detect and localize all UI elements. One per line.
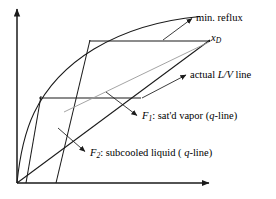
f2-tail-text: -line) (189, 147, 212, 158)
annotation-f1: F1: sat'd vapor (q-line) (142, 111, 237, 123)
f2-text: : subcooled liquid ( (100, 147, 184, 158)
annotation-min-reflux: min. reflux (196, 13, 243, 24)
distillation-diagram-figure: min. reflux xD actual L/V line F1: sat'd… (0, 0, 276, 199)
q-line-f2-subcooled-liquid (26, 96, 41, 183)
faint-rectifying-line (64, 42, 209, 112)
actual-lv-symbol: L/V (218, 69, 233, 80)
min-reflux-text: min. reflux (196, 12, 243, 23)
actual-prefix-text: actual (190, 69, 218, 80)
q-line-f1-saturated-vapor (56, 40, 90, 183)
xd-subscript: D (216, 36, 221, 45)
f1-text: : sat'd vapor ( (152, 110, 209, 121)
f1-tail-text: -line) (214, 110, 237, 121)
annotation-actual-lv: actual L/V line (190, 70, 251, 81)
annotation-f2: F2: subcooled liquid ( q-line) (90, 148, 212, 160)
leader-f2 (58, 128, 85, 152)
annotation-xd: xD (211, 33, 221, 45)
plot-canvas (0, 0, 276, 199)
leader-f1 (106, 92, 137, 116)
leader-actual-lv (142, 75, 186, 98)
actual-suffix-text: line (233, 69, 251, 80)
